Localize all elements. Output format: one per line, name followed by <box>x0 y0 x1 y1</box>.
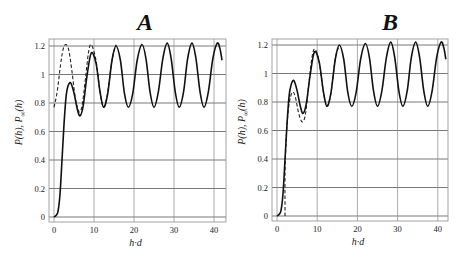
panel-a-x-ticks: 010203040 <box>52 225 218 235</box>
panel-a-y-ticks: 00.20.40.60.811.2 <box>34 41 45 222</box>
y-tick-label: 1 <box>264 69 268 79</box>
x-tick-label: 40 <box>434 224 443 234</box>
x-tick-label: 10 <box>90 225 99 235</box>
x-tick-label: 0 <box>275 224 279 234</box>
figure: A 00.20.40.60.811.2 010203040 h·d P(h), … <box>0 0 470 255</box>
panel-b: B 00.20.40.60.811.2 010203040 h·d P(h), … <box>236 9 448 247</box>
y-tick-label: 0.4 <box>257 154 268 164</box>
y-tick-label: 0.4 <box>34 155 45 165</box>
ylabel-p: P(h), P <box>13 116 25 146</box>
ylabel-arg: (h) <box>236 99 248 111</box>
panel-a-title: A <box>135 9 153 35</box>
y-tick-label: 0.2 <box>257 183 268 193</box>
panel-b-x-axis-label: h·d <box>352 236 366 247</box>
panel-b-y-ticks: 00.20.40.60.811.2 <box>257 40 268 221</box>
x-tick-label: 40 <box>210 225 219 235</box>
panel-b-y-axis-label: P(h), P∞(h) <box>236 99 250 146</box>
y-tick-label: 1.2 <box>257 40 268 50</box>
y-tick-label: 0.8 <box>34 98 45 108</box>
panel-b-x-ticks: 010203040 <box>275 224 442 234</box>
x-tick-label: 20 <box>353 224 362 234</box>
x-tick-label: 10 <box>313 224 322 234</box>
ylabel-arg: (h) <box>13 99 25 111</box>
panel-a-grid <box>49 39 226 222</box>
y-tick-label: 0.8 <box>257 97 268 107</box>
panel-a-series-p <box>54 43 222 217</box>
x-tick-label: 30 <box>170 225 179 235</box>
panel-a-plot-frame <box>49 39 226 222</box>
y-tick-label: 0 <box>41 212 45 222</box>
y-tick-label: 1 <box>41 70 45 80</box>
x-tick-label: 30 <box>393 224 402 234</box>
y-tick-label: 0 <box>264 211 268 221</box>
panel-a-x-axis-label: h·d <box>129 237 143 248</box>
ylabel-p: P(h), P <box>236 116 248 146</box>
panel-a-series <box>54 43 222 217</box>
y-tick-label: 1.2 <box>34 41 45 51</box>
y-tick-label: 0.6 <box>34 127 45 137</box>
panel-b-title: B <box>381 9 398 35</box>
panel-a-y-axis-label: P(h), P∞(h) <box>13 99 27 146</box>
y-tick-label: 0.6 <box>257 126 268 136</box>
panel-a: A 00.20.40.60.811.2 010203040 h·d P(h), … <box>13 9 226 248</box>
y-tick-label: 0.2 <box>34 184 45 194</box>
panel-b-series <box>277 42 446 216</box>
panel-b-series-p <box>277 42 446 216</box>
x-tick-label: 20 <box>130 225 139 235</box>
x-tick-label: 0 <box>52 225 56 235</box>
